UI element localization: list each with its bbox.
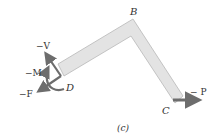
label-point-d: D bbox=[65, 82, 74, 93]
free-body-diagram: −V −M −F D B C − P (c) bbox=[0, 0, 219, 140]
label-axial: −F bbox=[19, 89, 33, 99]
label-point-c: C bbox=[162, 105, 170, 116]
force-arrows-at-d bbox=[39, 54, 64, 91]
label-shear: −V bbox=[36, 41, 51, 51]
axial-force-arrow-icon bbox=[39, 76, 61, 91]
bent-member bbox=[58, 19, 183, 103]
label-load: − P bbox=[190, 87, 206, 97]
label-point-b: B bbox=[129, 6, 137, 17]
figure-caption: (c) bbox=[117, 123, 130, 133]
label-moment: −M bbox=[25, 68, 42, 78]
